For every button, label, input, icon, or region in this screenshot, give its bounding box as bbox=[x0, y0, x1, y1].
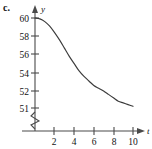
y-axis-label: y bbox=[40, 4, 45, 14]
x-tick-label-2: 2 bbox=[52, 137, 57, 147]
y-axis-ticks: 60 58 56 54 52 51 bbox=[20, 14, 40, 114]
x-axis-ticks: 2 4 6 8 10 bbox=[52, 127, 138, 147]
x-tick-label-4: 4 bbox=[72, 137, 77, 147]
x-tick-label-8: 8 bbox=[112, 137, 117, 147]
x-axis-arrow-icon bbox=[137, 128, 145, 134]
y-axis-arrow-icon bbox=[32, 5, 38, 13]
x-tick-label-10: 10 bbox=[128, 137, 138, 147]
y-tick-label-54: 54 bbox=[20, 69, 30, 79]
x-tick-label-6: 6 bbox=[92, 137, 97, 147]
y-tick-label-52: 52 bbox=[20, 87, 30, 97]
y-tick-label-56: 56 bbox=[20, 50, 30, 60]
data-curve bbox=[35, 18, 133, 106]
y-tick-label-58: 58 bbox=[20, 32, 30, 42]
x-axis-label: t bbox=[147, 126, 150, 136]
plot-area: y t 60 58 56 54 52 51 2 4 6 bbox=[0, 0, 152, 149]
y-tick-label-60: 60 bbox=[20, 14, 30, 24]
y-tick-label-51: 51 bbox=[20, 104, 30, 114]
figure-container: c. y t 60 58 56 54 52 51 bbox=[0, 0, 152, 149]
